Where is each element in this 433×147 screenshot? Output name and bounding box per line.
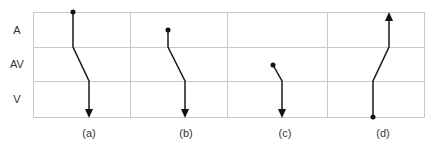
trajectory-c-line — [273, 65, 282, 110]
start-dot-icon — [271, 63, 276, 68]
transition-diagram: A AV V (a) (b) (c) (d) — [0, 0, 433, 147]
trajectory-c — [271, 63, 287, 119]
column-label-d: (d) — [376, 127, 389, 139]
row-label-av: AV — [10, 58, 25, 70]
start-dot-icon — [371, 115, 376, 120]
column-label-a: (a) — [82, 127, 95, 139]
arrow-down-icon — [181, 109, 189, 118]
column-label-b: (b) — [179, 127, 192, 139]
trajectory-d — [371, 12, 394, 120]
start-dot-icon — [71, 10, 76, 15]
row-label-v: V — [13, 93, 21, 105]
trajectory-b — [166, 28, 190, 119]
grid-border — [34, 13, 425, 118]
trajectory-d-line — [373, 20, 389, 117]
arrow-up-icon — [385, 12, 393, 21]
start-dot-icon — [166, 28, 171, 33]
column-label-c: (c) — [279, 127, 292, 139]
arrow-down-icon — [278, 109, 286, 118]
row-label-a: A — [13, 24, 21, 36]
grid — [34, 13, 425, 118]
trajectory-a — [71, 10, 94, 119]
trajectory-b-line — [168, 30, 185, 110]
arrow-down-icon — [85, 109, 93, 118]
trajectory-a-line — [73, 12, 89, 110]
